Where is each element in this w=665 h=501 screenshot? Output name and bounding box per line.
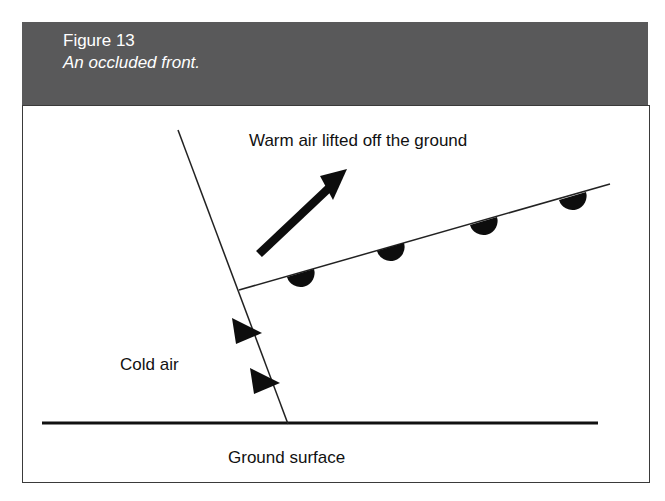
- diagram-panel: [22, 105, 650, 483]
- figure-title: An occluded front.: [63, 52, 200, 73]
- label-warm-air: Warm air lifted off the ground: [249, 131, 467, 151]
- label-ground-surface: Ground surface: [228, 448, 345, 468]
- figure-number: Figure 13: [63, 30, 135, 51]
- label-cold-air: Cold air: [120, 355, 179, 375]
- figure-page: Figure 13 An occluded front. Warm air li…: [0, 0, 665, 501]
- caption-band: Figure 13 An occluded front.: [22, 22, 648, 106]
